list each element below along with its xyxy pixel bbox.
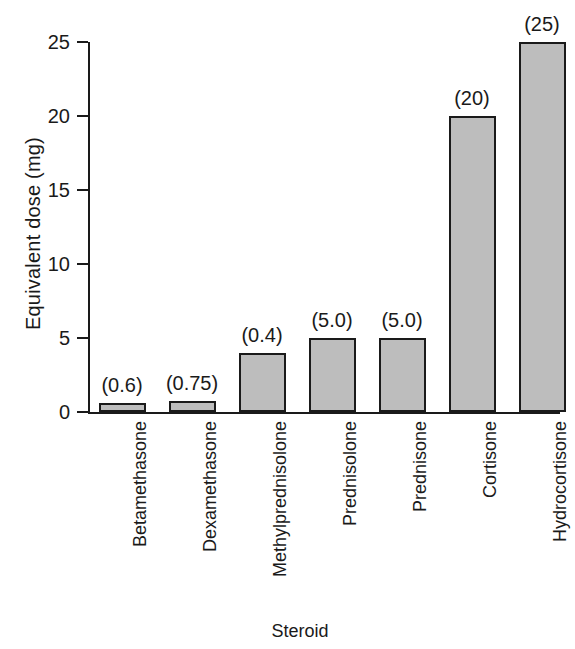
bar-cortisone (449, 116, 496, 412)
bar-value-label: (25) (524, 14, 560, 34)
x-axis-category-label: Hydrocortisone (551, 421, 569, 542)
x-axis-category-label: Betamethasone (131, 421, 149, 547)
x-axis-category-label: Prednisolone (341, 421, 359, 526)
y-axis-tick-label: 20 (14, 106, 70, 126)
bar-value-label: (20) (454, 88, 490, 108)
x-axis-category-label: Prednisone (411, 421, 429, 512)
y-axis-tick (77, 115, 88, 117)
y-axis-tick-label: 0 (14, 402, 70, 422)
x-axis-category-label: Cortisone (481, 421, 499, 498)
y-axis-tick (77, 189, 88, 191)
y-axis-tick-label: 25 (14, 32, 70, 52)
x-axis-category-label: Methylprednisolone (271, 421, 289, 577)
x-axis-title: Steroid (0, 621, 575, 642)
bar-prednisone (379, 338, 426, 412)
bar-betamethasone (99, 403, 146, 412)
bar-value-label: (0.6) (101, 375, 142, 395)
bar-value-label: (5.0) (311, 310, 352, 330)
y-axis-tick (77, 337, 88, 339)
bar-prednisolone (309, 338, 356, 412)
plot-area: (0.6)(0.75)(0.4)(5.0)(5.0)(20)(25) (88, 42, 560, 412)
x-axis-line (88, 412, 560, 414)
bar-dexamethasone (169, 401, 216, 412)
y-axis-tick-label: 5 (14, 328, 70, 348)
bar-methylprednisolone (239, 353, 286, 412)
bar-hydrocortisone (519, 42, 566, 412)
x-axis-category-label: Dexamethasone (201, 421, 219, 552)
y-axis-tick-label: 10 (14, 254, 70, 274)
y-axis-tick (77, 411, 88, 413)
bar-value-label: (0.4) (241, 325, 282, 345)
y-axis-tick (77, 263, 88, 265)
y-axis-tick-label: 15 (14, 180, 70, 200)
bar-value-label: (0.75) (166, 373, 218, 393)
bar-value-label: (5.0) (381, 310, 422, 330)
y-axis-tick (77, 41, 88, 43)
